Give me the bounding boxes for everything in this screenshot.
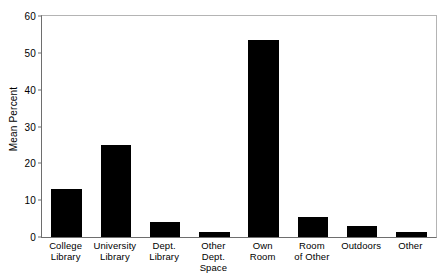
bar-series: [42, 16, 436, 237]
x-tick-label: Own Room: [238, 240, 287, 262]
bar: [396, 232, 427, 237]
bar-chart-figure: Mean Percent 0102030405060 College Libra…: [0, 0, 445, 277]
bar: [347, 226, 378, 237]
x-tick-label: Other: [386, 240, 435, 251]
bar: [248, 40, 279, 237]
x-tick-label: Room of Other: [287, 240, 336, 262]
x-tick-label: Outdoors: [337, 240, 386, 251]
x-tick-label: Dept. Library: [140, 240, 189, 262]
bar: [199, 232, 230, 237]
bar: [150, 222, 181, 237]
x-axis-tick-labels: College LibraryUniversity LibraryDept. L…: [41, 240, 437, 274]
plot-area: 0102030405060: [41, 15, 437, 238]
bar: [298, 217, 329, 237]
y-axis-title: Mean Percent: [6, 0, 22, 238]
x-tick-label: College Library: [41, 240, 90, 262]
bar: [101, 145, 132, 237]
x-tick-label: Other Dept. Space: [189, 240, 238, 273]
bar: [51, 189, 82, 237]
x-tick-label: University Library: [90, 240, 139, 262]
